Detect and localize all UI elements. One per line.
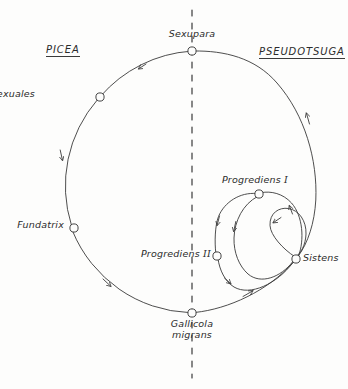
host-label-picea: PICEA <box>46 44 80 57</box>
stage-label-sistens: Sistens <box>303 252 339 263</box>
node-progrediens-1[interactable] <box>255 190 263 198</box>
node-sexupara[interactable] <box>188 47 196 55</box>
progrediens-1-numeral: I <box>284 174 288 185</box>
life-cycle-figure: PICEA PSEUDOTSUGA Sexupara Sexuales Fund… <box>0 0 348 389</box>
progrediens-2-word: Progrediens <box>141 248 200 259</box>
edge-progrediens2-to-sistens <box>218 259 293 290</box>
progrediens-1-word: Progrediens <box>222 174 281 185</box>
stage-label-gallicola-line2: migrans <box>171 330 213 341</box>
node-sistens[interactable] <box>292 255 300 263</box>
edge-sistens-to-sexupara <box>194 51 316 256</box>
node-gallicola-migrans[interactable] <box>188 309 196 317</box>
stage-label-fundatrix: Fundatrix <box>17 219 64 230</box>
edge-progrediens1-to-sistens-middle <box>234 197 293 280</box>
edge-sexuales-to-fundatrix <box>60 100 97 226</box>
stage-label-sexupara: Sexupara <box>169 28 216 39</box>
stage-label-gallicola-line1: Gallicola <box>171 319 213 330</box>
stage-label-progrediens-1: Progrediens I <box>222 174 288 185</box>
node-sexuales[interactable] <box>96 93 104 101</box>
node-fundatrix[interactable] <box>70 224 78 232</box>
stage-label-progrediens-2: Progrediens II <box>141 248 211 259</box>
progrediens-2-numeral: II <box>203 248 211 259</box>
host-label-pseudotsuga: PSEUDOTSUGA <box>259 46 345 59</box>
node-progrediens-2[interactable] <box>213 252 221 260</box>
edge-sexupara-to-sexuales <box>101 51 191 96</box>
stage-label-gallicola-migrans: Gallicola migrans <box>171 319 213 340</box>
edge-fundatrix-to-gallicola <box>73 232 189 313</box>
stage-label-sexuales: Sexuales <box>0 88 35 99</box>
